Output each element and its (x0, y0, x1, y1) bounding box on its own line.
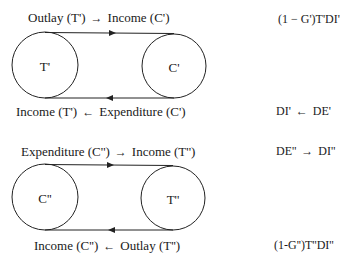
flow-diagram-canvas (0, 0, 359, 263)
diagram-2-top-label: Expenditure (C'')→Income (T'') (21, 145, 195, 158)
equation-2-bottom: (1-G'')T''DI'' (274, 239, 334, 251)
left-arrow-icon: ← (82, 106, 94, 118)
equation-1-bottom: DI'←DE' (276, 105, 331, 117)
node-c-double-prime: C'' (38, 192, 51, 205)
equation-1-top: (1 − G')T'DI' (278, 13, 340, 25)
expenditure-c-double-prime: Expenditure (C'') (21, 144, 110, 159)
left-arrow-icon (106, 95, 113, 101)
left-arrow-icon (108, 227, 115, 233)
node-t-double-prime: T'' (167, 193, 180, 206)
income-t-prime: Income (T') (16, 104, 77, 119)
de-prime: DE' (313, 104, 331, 118)
income-c-prime: Income (C') (108, 10, 170, 25)
de-double-prime: DE'' (276, 144, 296, 158)
outlay-t-prime: Outlay (T') (28, 10, 86, 25)
income-c-double-prime: Income (C'') (34, 238, 98, 253)
diagram-1-top-label: Outlay (T')→Income (C') (28, 11, 169, 24)
expenditure-c-prime: Expenditure (C') (99, 104, 185, 119)
left-arrow-icon: ← (296, 105, 308, 117)
outlay-t-double-prime: Outlay (T'') (120, 238, 180, 253)
right-arrow-icon: → (301, 145, 313, 157)
right-arrow-icon (107, 162, 114, 168)
right-arrow-icon: → (115, 146, 127, 158)
node-t-prime: T' (40, 60, 50, 73)
left-arrow-icon: ← (103, 240, 115, 252)
di-double-prime: DI'' (318, 144, 335, 158)
right-arrow-icon: → (91, 12, 103, 24)
node-c-prime: C' (168, 61, 179, 74)
income-t-double-prime: Income (T'') (132, 144, 196, 159)
equation-2-top: DE''→DI'' (276, 145, 335, 157)
diagram-2-bottom-label: Income (C'')←Outlay (T'') (34, 239, 180, 252)
di-prime: DI' (276, 104, 291, 118)
diagram-1-bottom-label: Income (T')←Expenditure (C') (16, 105, 186, 118)
right-arrow-icon (109, 30, 116, 36)
